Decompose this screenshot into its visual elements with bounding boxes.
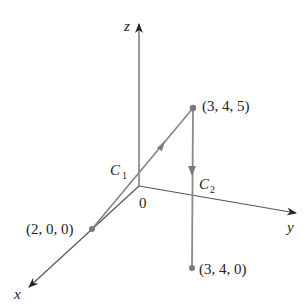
c2-label-sub: 2 — [210, 184, 215, 195]
z-axis-label: z — [123, 18, 130, 34]
origin-label: 0 — [139, 195, 147, 211]
point-label-2-0-0: (2, 0, 0) — [26, 221, 74, 238]
point-2-0-0 — [89, 226, 95, 232]
curve-label-c1: C 1 — [110, 162, 127, 181]
c2-label-main: C — [199, 176, 210, 192]
point-label-3-4-0: (3, 4, 0) — [199, 261, 247, 278]
point-label-3-4-5: (3, 4, 5) — [202, 98, 250, 115]
x-axis-label: x — [13, 286, 21, 302]
c1-label-sub: 1 — [122, 170, 127, 181]
c1-label-main: C — [110, 162, 121, 178]
point-3-4-5 — [190, 105, 196, 111]
curve-label-c2: C 2 — [199, 176, 215, 195]
c2-direction-arrow-icon — [188, 166, 196, 176]
curve-c2 — [188, 108, 196, 268]
diagram-canvas: z y x 0 (2, 0, 0) (3, 4, 5) (3, 4, 0) C … — [0, 0, 308, 307]
y-axis — [139, 186, 296, 213]
y-axis-label: y — [285, 219, 294, 235]
point-3-4-0 — [189, 265, 195, 271]
